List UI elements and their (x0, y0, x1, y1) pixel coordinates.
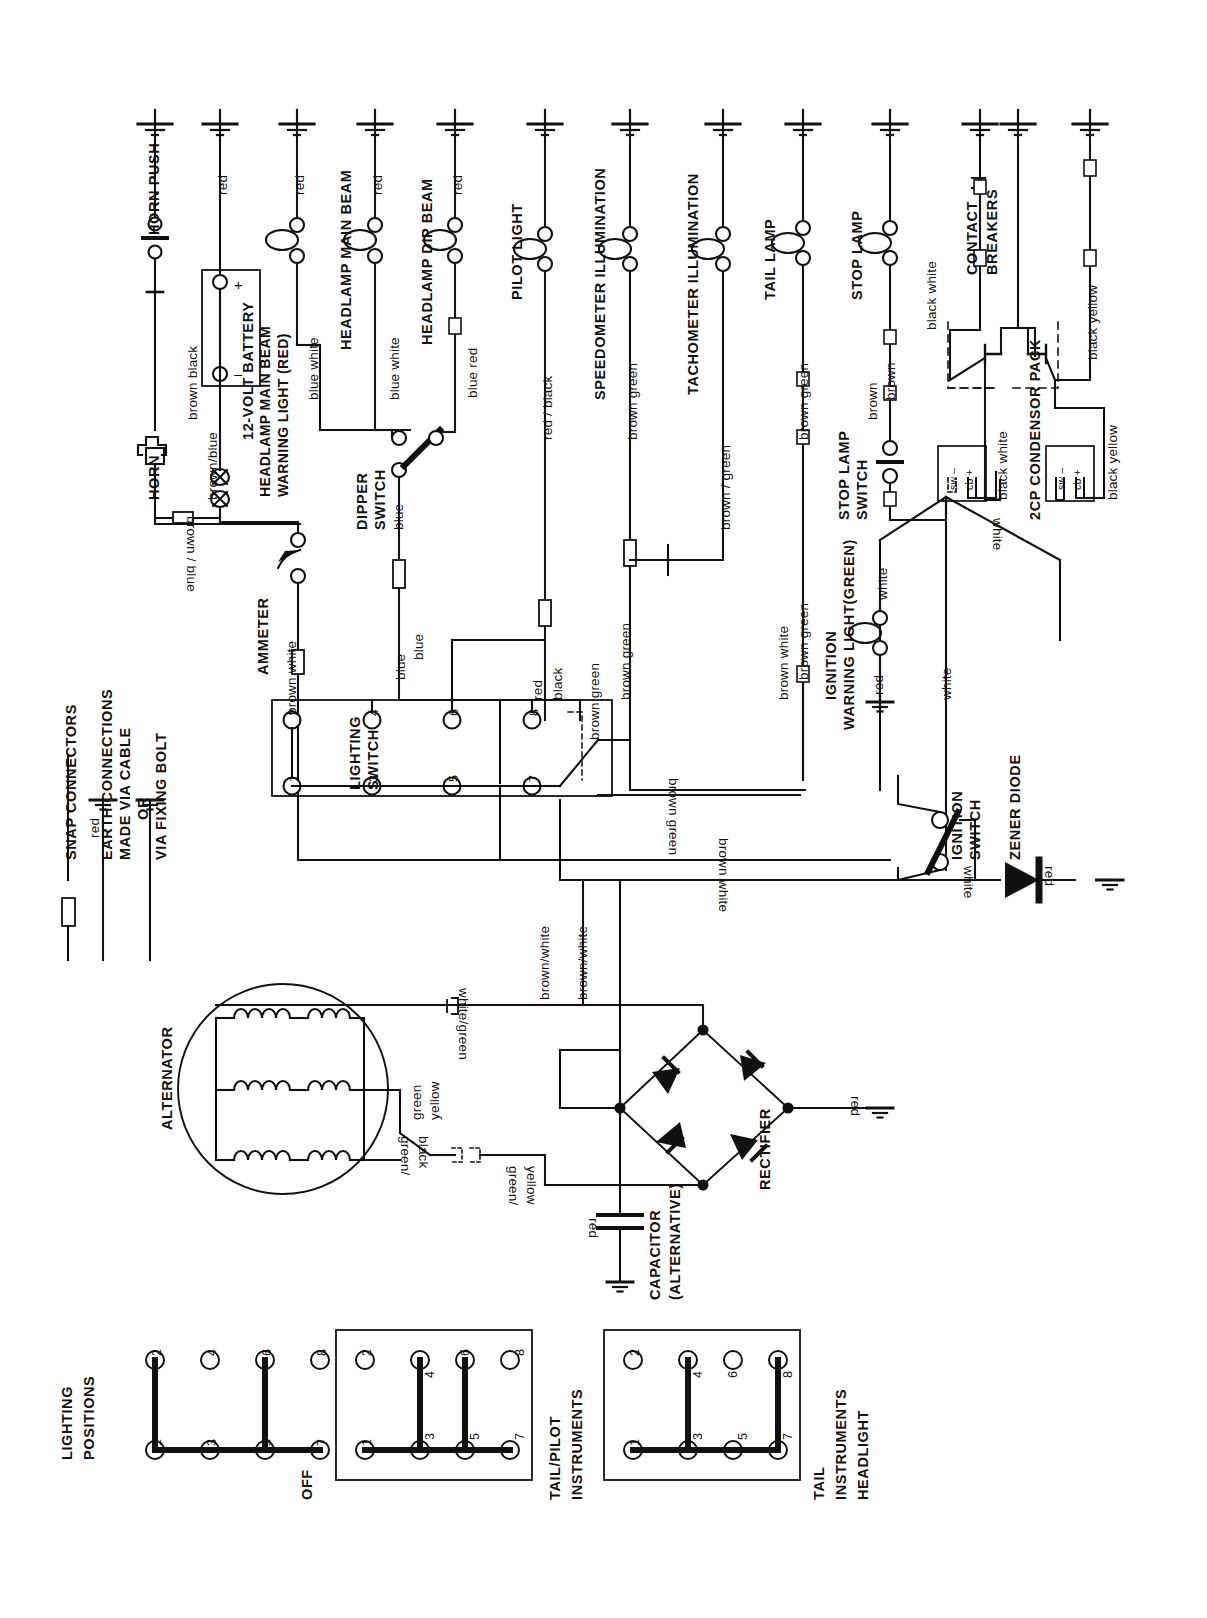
condensor-terminal-sw-1: sw – (948, 468, 959, 490)
wire-brown-white-ammeter: brown white (285, 641, 300, 715)
ls-term-1: 1 (288, 775, 302, 782)
wire-brown-green-sw: brown green (619, 623, 634, 700)
off-term-2: 2 (151, 1349, 165, 1356)
wire-blue-white-1: blue white (307, 337, 322, 400)
wire-brown-black: brown black (186, 346, 201, 420)
label-zener-diode: ZENER DIODE (1008, 754, 1024, 860)
legend-snap-connectors: SNAP CONNECTORS (64, 704, 80, 860)
wire-red-capacitor: red (585, 1218, 600, 1238)
ls-term-6: 6 (448, 709, 462, 716)
ls-term-7: 7 (528, 775, 542, 782)
label-position-headlight-l2: INSTRUMENTS (834, 1389, 850, 1500)
label-lighting-switch-l1: LIGHTING (348, 716, 364, 790)
wire-brown-blue-2: brown / blue (183, 516, 198, 592)
legend-via-fixing-bolt: VIA FIXING BOLT (154, 733, 170, 860)
ls-term-5: 5 (448, 775, 462, 782)
label-speedometer-illumination: SPEEDOMETER ILLUMINATION (593, 168, 609, 400)
wire-green-black-l1: green/ (397, 1136, 412, 1175)
wire-green-yellow-b-l2: yellow (523, 1166, 538, 1205)
wire-green-yellow-l2: yellow (428, 1081, 443, 1120)
th-term-5: 5 (737, 1433, 751, 1440)
off-term-5: 5 (261, 1439, 275, 1446)
wire-green-yellow-l1: green (410, 1084, 425, 1120)
label-stop-lamp-switch-l2: SWITCH (855, 459, 871, 520)
wire-black-yellow-2: black yellow (1106, 425, 1121, 500)
label-ignition-warning-l2: WARNING LIGHT(GREEN) (842, 539, 858, 730)
condensor-terminal-sw-2: sw – (1056, 468, 1067, 490)
battery-minus: – (234, 366, 242, 382)
label-ignition-switch-l1: IGNITION (950, 791, 966, 860)
label-headlamp-main-beam: HEADLAMP MAIN BEAM (339, 169, 355, 350)
label-main-beam-warning-l2: WARNING LIGHT (RED) (276, 333, 291, 497)
label-contact-breakers-l2: BREAKERS (985, 189, 1001, 275)
wire-blue-white-2: blue white (388, 337, 403, 400)
wire-brown-green-tacho: brown / green (719, 445, 734, 530)
off-term-3: 3 (206, 1439, 220, 1446)
condensor-terminal-cb-1: cb + (964, 469, 975, 490)
wire-brown-white-bus: brown white (715, 838, 730, 912)
wire-brown-stop2: brown (866, 382, 881, 420)
label-lighting-positions-l2: POSITIONS (82, 1376, 98, 1460)
wire-blue-red: blue red (466, 348, 481, 398)
off-term-4: 4 (206, 1349, 220, 1356)
battery-plus: + (234, 277, 243, 293)
wire-green-yellow-b-l1: green/ (505, 1166, 520, 1205)
tp-term-6: 6 (459, 1349, 473, 1356)
wire-white-green: white/green (455, 988, 470, 1060)
wire-brown-white-rect-1: brown/white (538, 926, 553, 1000)
label-ammeter: AMMETER (256, 598, 272, 676)
wire-red-zener: red (1041, 866, 1056, 886)
wire-brown-stop: brown (884, 362, 899, 400)
wire-red-battery: red (216, 175, 231, 195)
legend-or: OR (136, 797, 152, 820)
label-dipper-switch-l1: DIPPER (355, 472, 371, 530)
label-ignition-warning-l1: IGNITION (824, 631, 840, 700)
wire-white-warning: white (876, 567, 891, 600)
wire-blue-2: blue (394, 654, 409, 680)
label-tachometer-illumination: TACHOMETER ILLUMINATION (686, 173, 702, 395)
wire-white-cp: white (989, 518, 1004, 551)
ls-term-2: 2 (288, 709, 302, 716)
ls-term-4: 4 (368, 709, 382, 716)
label-tail-lamp: TAIL LAMP (763, 219, 779, 300)
off-term-1: 1 (151, 1439, 165, 1446)
th-term-7: 7 (782, 1433, 796, 1440)
tp-term-7: 7 (514, 1433, 528, 1440)
label-position-tailpilot-l2: INSTRUMENTS (570, 1389, 586, 1500)
label-rectifier: RECTIFIER (758, 1108, 774, 1190)
wire-red-b: red (531, 680, 546, 700)
label-condensor-pack: 2CP CONDENSOR PACK (1028, 339, 1044, 520)
label-main-beam-warning-l1: HEADLAMP MAIN BEAM (258, 326, 273, 497)
off-term-8: 8 (316, 1349, 330, 1356)
label-horn: HORN (147, 455, 163, 500)
wire-brown-green-tail: brown green (797, 363, 812, 440)
label-dipper-switch-l2: SWITCH (373, 469, 389, 530)
tp-term-5: 5 (469, 1433, 483, 1440)
th-term-1: 1 (629, 1439, 643, 1446)
th-term-3: 3 (692, 1433, 706, 1440)
label-stop-lamp-switch-l1: STOP LAMP (837, 431, 853, 520)
off-term-6: 6 (261, 1349, 275, 1356)
legend-made-via-cable: MADE VIA CABLE (118, 727, 134, 860)
wire-brown-white-mid: brown white (777, 626, 792, 700)
label-stop-lamp: STOP LAMP (850, 211, 866, 300)
wire-brown-green-ls: brown green (588, 663, 603, 740)
label-horn-push: HORN PUSH (147, 143, 163, 235)
label-ignition-switch-l2: SWITCH (968, 799, 984, 860)
wiring-diagram-sheet: HORN PUSH HORN 12-VOLT BATTERY red brown… (0, 0, 1207, 1618)
wire-blue-3: blue (412, 634, 427, 660)
tp-term-8: 8 (514, 1349, 528, 1356)
th-term-4: 4 (692, 1371, 706, 1378)
wire-white-zener: white (960, 866, 975, 899)
wire-black-yellow-1: black yellow (1086, 285, 1101, 360)
wire-white-ign: white (940, 667, 955, 700)
label-headlamp-dip-beam: HEADLAMP DIP BEAM (420, 178, 436, 345)
th-term-6: 6 (727, 1371, 741, 1378)
wire-black-white-1: black white (925, 261, 940, 330)
wire-blue-dipper: blue (392, 504, 407, 530)
label-pilot-light: PILOT LIGHT (510, 203, 526, 300)
label-position-tailpilot-l1: TAIL/PILOT (548, 1416, 564, 1500)
condensor-terminal-cb-2: cb + (1072, 469, 1083, 490)
label-capacitor-l2: (ALTERNATIVE) (668, 1183, 684, 1300)
label-position-headlight-l1: TAIL (812, 1466, 828, 1500)
